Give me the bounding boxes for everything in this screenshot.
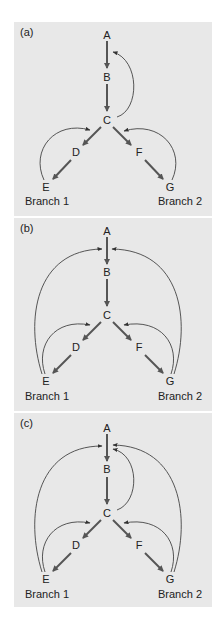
feedback-e-to-ab: [35, 446, 102, 572]
node-f: F: [136, 341, 143, 353]
feedback-c-to-ab: [113, 52, 134, 117]
edge-d-e: [53, 160, 71, 179]
branch-2-label: Branch 2: [158, 195, 202, 207]
branch-1-label: Branch 1: [25, 195, 69, 207]
feedback-g-to-ab: [113, 445, 181, 572]
panel-a: (a) A B C D E F G Branch 1 Branch 2: [14, 22, 212, 216]
feedback-c-to-ab: [113, 449, 134, 510]
panel-b: (b) A B C D E F G Branch 1 Branch 2: [14, 218, 212, 411]
node-e: E: [42, 573, 49, 585]
edge-c-d: [83, 127, 101, 145]
feedback-e-to-cd: [42, 324, 90, 374]
edge-f-g: [145, 160, 163, 179]
feedback-e-to-cd: [40, 128, 90, 180]
edge-d-e: [53, 553, 71, 571]
feedback-e-to-ab: [35, 249, 102, 374]
node-d: D: [72, 341, 80, 353]
diagram-b: A B C D E F G Branch 1 Branch 2: [14, 218, 212, 411]
node-d: D: [72, 539, 80, 551]
node-a: A: [103, 422, 111, 434]
node-f: F: [136, 146, 143, 158]
node-c: C: [103, 507, 111, 519]
node-e: E: [42, 181, 49, 193]
branch-1-label: Branch 1: [25, 588, 69, 600]
node-a: A: [103, 29, 111, 41]
feedback-g-to-cf: [124, 129, 176, 180]
branch-2-label: Branch 2: [158, 588, 202, 600]
diagram-c: A B C D E F G Branch 1 Branch 2: [14, 413, 212, 607]
edge-f-g: [145, 355, 163, 373]
node-c: C: [103, 114, 111, 126]
branch-2-label: Branch 2: [158, 390, 202, 402]
panel-c: (c) A B C D E F G Branch 1 Branch 2: [14, 413, 212, 607]
edge-d-e: [53, 355, 71, 373]
node-b: B: [103, 266, 110, 278]
edge-f-g: [145, 553, 163, 571]
feedback-g-to-cf: [124, 324, 174, 374]
node-f: F: [136, 539, 143, 551]
node-c: C: [103, 309, 111, 321]
node-g: G: [166, 375, 175, 387]
node-g: G: [166, 573, 175, 585]
feedback-e-to-cd: [42, 522, 90, 572]
branch-1-label: Branch 1: [25, 390, 69, 402]
node-b: B: [103, 71, 110, 83]
node-a: A: [103, 225, 111, 237]
diagram-a: A B C D E F G Branch 1 Branch 2: [14, 22, 212, 216]
node-e: E: [42, 375, 49, 387]
feedback-g-to-cf: [124, 522, 174, 572]
node-d: D: [72, 146, 80, 158]
node-g: G: [166, 181, 175, 193]
node-b: B: [103, 463, 110, 475]
